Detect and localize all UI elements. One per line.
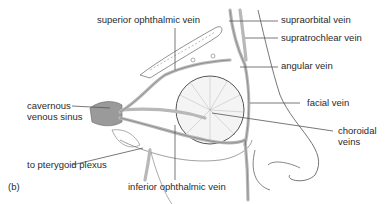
label-choroidal-veins-line2: veins [338, 137, 360, 148]
label-inferior-ophthalmic-vein: inferior ophthalmic vein [128, 182, 226, 193]
panel-label: (b) [8, 182, 20, 193]
label-pterygoid-plexus: to pterygoid plexus [27, 160, 107, 171]
label-cavernous-venous-sinus-line2: venous sinus [27, 112, 82, 123]
label-facial-vein: facial vein [307, 98, 349, 109]
orbital-venous-drainage-diagram: superior ophthalmic vein supraorbital ve… [0, 0, 391, 204]
label-angular-vein: angular vein [281, 61, 333, 72]
label-supratrochlear-vein: supratrochlear vein [281, 33, 362, 44]
label-supraorbital-vein: supraorbital vein [281, 15, 351, 26]
label-superior-ophthalmic-vein: superior ophthalmic vein [97, 15, 200, 26]
label-cavernous-venous-sinus-line1: cavernous [27, 101, 71, 112]
label-choroidal-veins-line1: choroidal [338, 126, 377, 137]
